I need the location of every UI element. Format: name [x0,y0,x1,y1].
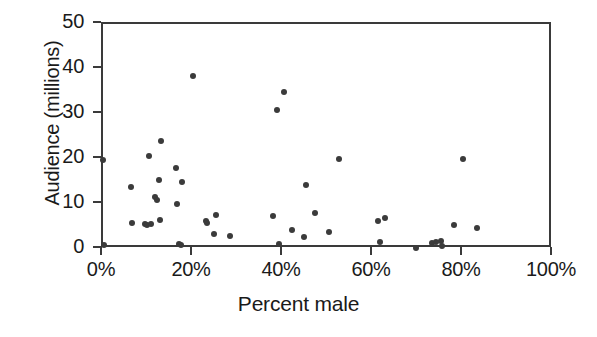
y-tick-label: 20 [0,146,84,166]
y-tick-label: 0 [0,236,84,256]
y-tick-mark [93,111,101,113]
data-point [451,222,457,228]
data-point [211,231,217,237]
data-point [274,107,280,113]
x-tick-mark [100,247,102,255]
data-point [146,153,152,159]
y-tick-mark [93,201,101,203]
x-tick-label: 20% [146,258,236,280]
x-tick-label: 80% [416,258,506,280]
data-point [413,245,419,251]
data-point [289,227,295,233]
data-point [213,212,219,218]
y-tick-label: 10 [0,191,84,211]
scatter-chart-figure: Audience (millions) 01020304050 0%20%40%… [0,0,597,337]
y-tick-mark [93,21,101,23]
data-point [190,73,196,79]
plot-area [101,22,551,247]
data-point [270,213,276,219]
x-tick-label: 60% [326,258,416,280]
x-tick-label: 0% [56,258,146,280]
data-point [129,220,135,226]
data-point [301,234,307,240]
data-point [100,157,106,163]
y-tick-label: 40 [0,56,84,76]
data-point [276,241,282,247]
y-tick-label: 30 [0,101,84,121]
data-point [204,220,210,226]
y-tick-mark [93,66,101,68]
data-point [382,215,388,221]
data-point [148,221,154,227]
data-point [173,165,179,171]
data-point [178,242,184,248]
data-point [158,138,164,144]
data-point [174,201,180,207]
data-point [227,233,233,239]
data-point [377,239,383,245]
y-tick-label: 50 [0,11,84,31]
data-point [375,218,381,224]
data-point [281,89,287,95]
x-axis-title: Percent male [0,292,597,316]
data-point [460,156,466,162]
data-point [474,225,480,231]
data-point [303,182,309,188]
data-point [312,210,318,216]
data-point [154,197,160,203]
data-point [157,217,163,223]
data-point [101,242,107,248]
data-point [336,156,342,162]
data-point [326,229,332,235]
x-tick-label: 40% [236,258,326,280]
data-point [156,177,162,183]
data-points-layer [103,24,553,249]
data-point [128,184,134,190]
data-point [179,179,185,185]
x-tick-label: 100% [506,258,596,280]
data-point [439,243,445,249]
